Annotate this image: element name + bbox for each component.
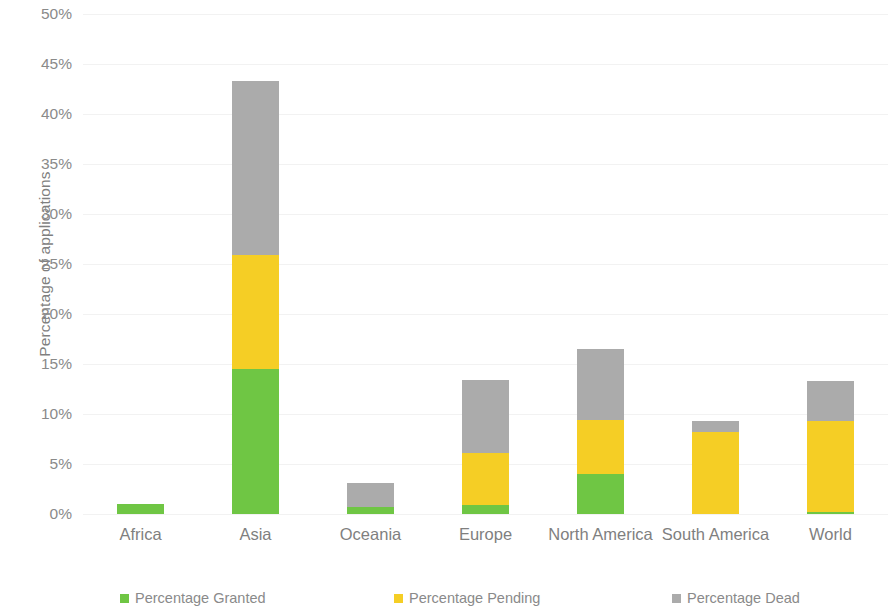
bar-segment[interactable] (577, 349, 624, 420)
y-axis-tick-label: 5% (12, 455, 72, 473)
stacked-bar-chart: Percentage of applications 0%5%10%15%20%… (0, 0, 888, 608)
bar-segment[interactable] (232, 255, 279, 369)
bar-segment[interactable] (462, 505, 509, 514)
bar-group[interactable] (692, 14, 739, 514)
bar-group[interactable] (577, 14, 624, 514)
x-axis-tick-label: North America (541, 522, 661, 547)
y-axis-tick-label: 25% (12, 255, 72, 273)
legend-label: Percentage Dead (687, 590, 800, 606)
legend-label: Percentage Granted (135, 590, 266, 606)
y-axis-tick-label: 30% (12, 205, 72, 223)
bar-segment[interactable] (807, 381, 854, 421)
bar-group[interactable] (807, 14, 854, 514)
legend-label: Percentage Pending (409, 590, 540, 606)
x-axis-tick-labels: AfricaAsiaOceaniaEuropeNorth AmericaSout… (83, 522, 888, 584)
y-axis-tick-labels: 0%5%10%15%20%25%30%35%40%45%50% (0, 14, 72, 514)
bar-segment[interactable] (117, 504, 164, 514)
bar-segment[interactable] (807, 512, 854, 514)
bar-group[interactable] (117, 14, 164, 514)
legend-swatch-icon (120, 594, 129, 603)
x-axis-tick-label: Asia (196, 522, 316, 547)
bar-segment[interactable] (692, 432, 739, 514)
x-axis-tick-label: Africa (81, 522, 201, 547)
bar-segment[interactable] (577, 474, 624, 514)
x-axis-tick-label: World (771, 522, 888, 547)
bar-group[interactable] (462, 14, 509, 514)
legend-item[interactable]: Percentage Pending (394, 588, 540, 608)
bar-segment[interactable] (692, 421, 739, 432)
y-axis-tick-label: 0% (12, 505, 72, 523)
y-axis-tick-label: 50% (12, 5, 72, 23)
plot-area (83, 14, 888, 514)
legend-item[interactable]: Percentage Granted (120, 588, 266, 608)
x-axis-tick-label: South America (656, 522, 776, 547)
bar-segment[interactable] (462, 380, 509, 453)
y-axis-tick-label: 35% (12, 155, 72, 173)
y-axis-tick-label: 15% (12, 355, 72, 373)
gridline (83, 514, 888, 515)
bar-segment[interactable] (807, 421, 854, 512)
bar-group[interactable] (232, 14, 279, 514)
bar-segment[interactable] (577, 420, 624, 474)
bar-segment[interactable] (232, 81, 279, 255)
y-axis-tick-label: 45% (12, 55, 72, 73)
y-axis-tick-label: 10% (12, 405, 72, 423)
chart-legend: Percentage GrantedPercentage PendingPerc… (0, 588, 888, 608)
bar-segment[interactable] (347, 483, 394, 507)
legend-swatch-icon (394, 594, 403, 603)
bar-segment[interactable] (347, 507, 394, 514)
bar-segment[interactable] (462, 453, 509, 505)
bar-group[interactable] (347, 14, 394, 514)
legend-swatch-icon (672, 594, 681, 603)
y-axis-tick-label: 40% (12, 105, 72, 123)
x-axis-tick-label: Europe (426, 522, 546, 547)
legend-item[interactable]: Percentage Dead (672, 588, 800, 608)
y-axis-tick-label: 20% (12, 305, 72, 323)
x-axis-tick-label: Oceania (311, 522, 431, 547)
bar-segment[interactable] (232, 369, 279, 514)
